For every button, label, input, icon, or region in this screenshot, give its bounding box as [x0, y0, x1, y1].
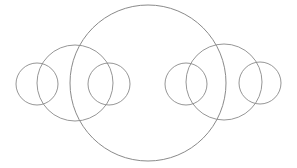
- small-circle-inner-left: [88, 63, 130, 105]
- circle-group: [16, 5, 281, 161]
- medium-circle-right: [186, 44, 262, 120]
- figure-canvas: [0, 0, 297, 168]
- large-circle-center: [70, 5, 226, 161]
- circles-diagram: [0, 0, 297, 168]
